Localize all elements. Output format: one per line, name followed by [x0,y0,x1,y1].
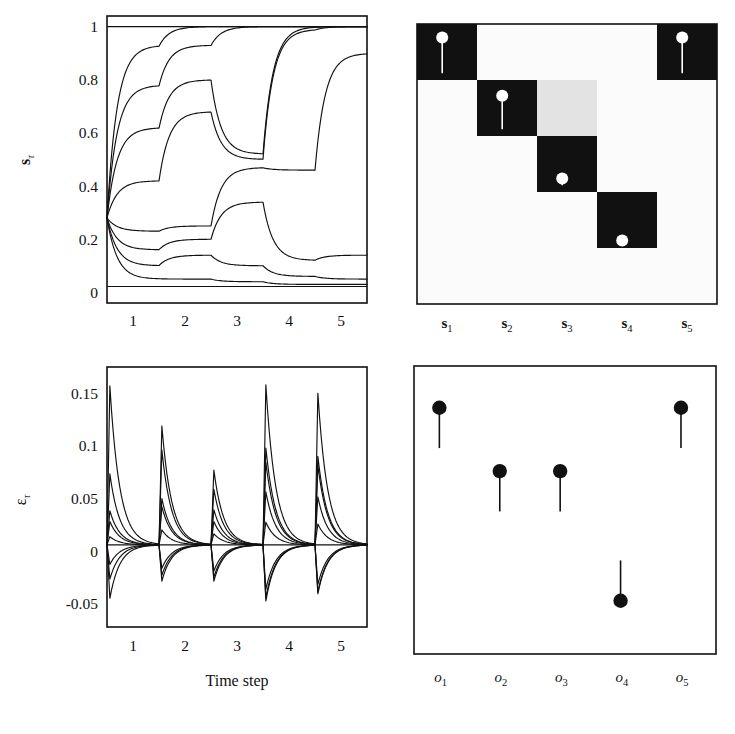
output-label-o2: o2 [495,669,508,688]
error-plot-frame [107,367,367,627]
state-xtick-1: 1 [129,312,137,329]
output-stems-svg: o1o2o3o4o5 [378,352,735,734]
state-curve-2 [107,27,367,218]
state-matrix-label-s4: s4 [621,315,633,334]
matrix-cell-r2-c2 [477,80,537,136]
error-xtick-3: 3 [233,637,241,654]
error-y-axis-label: ετ [12,494,32,506]
matrix-cells-group [417,24,717,304]
figure-root: 12345 00.20.40.60.81 sτ s1s2s3s4s5 12345… [0,0,735,734]
state-ytick-0.4: 0.4 [79,178,99,195]
state-ytick-labels: 00.20.40.60.81 [79,18,99,301]
error-curve-8 [107,545,367,601]
state-xtick-2: 2 [181,312,189,329]
error-curve-7 [107,545,367,598]
state-curve-7 [107,218,367,279]
matrix-cell-r2-c3 [537,80,597,136]
matrix-cell-r1-c1 [417,24,477,80]
error-ytick-labels: -0.0500.050.10.15 [66,385,99,613]
state-matrix-label-s5: s5 [681,315,692,334]
state-plot-frame [107,16,367,303]
matrix-stem-marker-1 [436,32,448,44]
state-matrix-category-labels: s1s2s3s4s5 [441,315,692,334]
error-ytick-0.15: 0.15 [71,385,98,402]
state-matrix-label-s2: s2 [501,315,512,334]
state-curve-3 [107,27,367,218]
state-xtick-3: 3 [233,312,241,329]
error-xtick-1: 1 [129,637,137,654]
error-xtick-4: 4 [285,637,293,654]
state-y-axis-label: sτ [16,154,36,165]
matrix-stem-marker-5 [616,235,628,247]
state-ytick-1: 1 [90,18,98,35]
output-plot-frame [414,366,716,654]
state-ytick-0.2: 0.2 [79,231,98,248]
error-xtick-labels: 12345 [129,637,345,654]
error-ytick-0: 0 [90,543,98,560]
error-trajectories-svg: 12345 -0.0500.050.10.15 ετ Time step [0,352,378,734]
state-curves-group [107,27,367,287]
error-x-axis-title: Time step [206,672,269,690]
state-matrix-label-s1: s1 [441,315,452,334]
output-label-o4: o4 [615,669,629,688]
error-curve-3 [107,462,367,545]
state-curve-8 [107,218,367,284]
panel-error-trajectories: 12345 -0.0500.050.10.15 ετ Time step [0,352,378,734]
panel-output-stems: o1o2o3o4o5 [378,352,735,734]
matrix-cell-r1-c5 [657,24,717,80]
state-xtick-4: 4 [285,312,293,329]
error-xtick-5: 5 [337,637,345,654]
error-ytick--0.05: -0.05 [66,595,99,612]
state-ytick-0.6: 0.6 [79,124,99,141]
state-curve-1 [107,27,367,218]
matrix-stem-marker-4 [556,172,568,184]
error-curve-2 [107,448,367,545]
output-stem-marker-2 [493,464,507,478]
state-matrix-label-s3: s3 [561,315,572,334]
output-stem-marker-3 [553,464,567,478]
output-label-o5: o5 [676,669,689,688]
state-matrix-svg: s1s2s3s4s5 [378,0,735,352]
state-ytick-0.8: 0.8 [79,71,99,88]
error-curves-group [107,385,367,601]
panel-state-matrix: s1s2s3s4s5 [378,0,735,352]
panel-state-trajectories: 12345 00.20.40.60.81 sτ [0,0,378,352]
error-ytick-0.05: 0.05 [71,490,98,507]
output-stem-marker-4 [613,594,627,608]
matrix-stem-marker-2 [676,32,688,44]
error-ytick-0.1: 0.1 [79,437,98,454]
matrix-cell-r3-c3 [537,136,597,192]
state-trajectories-svg: 12345 00.20.40.60.81 sτ [0,0,378,352]
output-stem-marker-5 [674,401,688,415]
state-xtick-5: 5 [337,312,345,329]
state-ytick-0: 0 [90,284,98,301]
output-stem-marker-1 [432,401,446,415]
output-label-o3: o3 [555,669,568,688]
error-curve-6 [107,545,367,589]
state-xtick-labels: 12345 [129,312,345,329]
output-label-o1: o1 [434,669,447,688]
output-stems-group [432,401,688,608]
matrix-stem-marker-3 [496,90,508,102]
error-xtick-2: 2 [181,637,189,654]
state-curve-4 [107,27,367,218]
output-category-labels: o1o2o3o4o5 [434,669,688,688]
error-curve-1 [107,385,367,545]
